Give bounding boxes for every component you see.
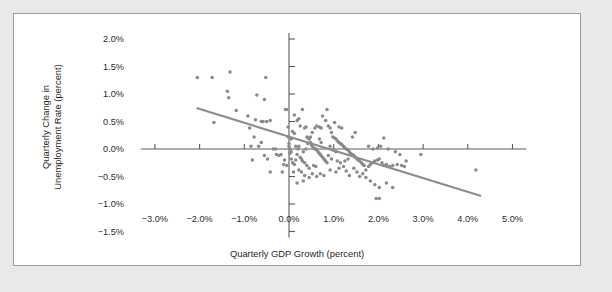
y-tick-label: 1.0% — [103, 89, 124, 99]
data-point — [307, 176, 311, 180]
y-tick-label: −0.5% — [98, 172, 124, 182]
data-point — [333, 121, 337, 125]
data-point — [319, 126, 323, 130]
data-point — [283, 158, 287, 162]
data-point — [340, 126, 344, 130]
data-point — [293, 113, 297, 117]
data-point — [302, 179, 306, 183]
data-point — [327, 154, 331, 158]
data-point — [309, 135, 313, 139]
data-point — [279, 153, 283, 157]
data-point — [403, 165, 407, 169]
data-point — [364, 176, 368, 180]
data-point — [305, 164, 309, 168]
data-point — [394, 150, 398, 154]
data-point — [344, 169, 348, 173]
data-point — [315, 175, 319, 179]
data-point — [255, 93, 259, 97]
x-tick-label: 2.0% — [368, 214, 389, 224]
x-tick-label: −3.0% — [142, 214, 168, 224]
data-point — [286, 125, 290, 129]
data-point — [328, 168, 332, 172]
data-point — [419, 153, 423, 157]
data-point — [274, 147, 278, 151]
data-point — [378, 186, 382, 190]
y-tick-label: −1.5% — [98, 227, 124, 237]
data-point — [251, 158, 255, 162]
data-point — [264, 76, 268, 80]
data-point — [226, 90, 230, 94]
x-tick-label: 4.0% — [457, 214, 478, 224]
data-point — [289, 157, 293, 161]
data-point — [268, 170, 272, 174]
x-tick-label: 5.0% — [502, 214, 523, 224]
data-point — [334, 170, 338, 174]
data-point — [325, 108, 329, 112]
data-point — [254, 118, 258, 122]
data-point — [367, 145, 371, 149]
data-point — [369, 179, 373, 183]
data-point — [304, 147, 308, 151]
data-point — [358, 175, 362, 179]
data-point — [257, 145, 261, 149]
data-point — [361, 172, 365, 176]
data-point — [314, 165, 318, 169]
data-point — [337, 167, 341, 171]
x-tick-label: −1.0% — [231, 214, 257, 224]
data-point — [212, 121, 216, 125]
data-point — [318, 137, 322, 141]
data-point — [319, 172, 323, 176]
data-point — [376, 146, 380, 150]
data-point — [268, 119, 272, 123]
data-point — [297, 117, 301, 121]
data-point — [378, 157, 382, 161]
y-tick-label: 2.0% — [103, 34, 124, 44]
data-point — [330, 131, 334, 135]
data-point — [295, 153, 299, 157]
data-point — [301, 108, 305, 112]
data-point — [293, 163, 297, 167]
data-point — [353, 131, 357, 135]
data-point — [298, 124, 302, 128]
data-point — [342, 165, 346, 169]
x-tick-label: −2.0% — [186, 214, 212, 224]
data-point — [352, 167, 356, 171]
axes-layer — [141, 33, 527, 238]
y-axis-title-group: Quarterly Change in Unemployment Rate (p… — [40, 64, 63, 190]
data-point — [304, 125, 308, 129]
data-point — [300, 170, 304, 174]
data-point — [382, 136, 386, 140]
data-point — [346, 157, 350, 161]
data-point — [351, 135, 355, 139]
data-point — [371, 147, 375, 151]
data-point — [265, 120, 269, 124]
data-point — [398, 153, 402, 157]
y-tick-label: −1.0% — [98, 199, 124, 209]
data-point — [297, 168, 301, 172]
data-point — [295, 181, 299, 185]
data-point — [324, 119, 328, 123]
data-point — [298, 156, 302, 160]
data-point — [330, 157, 334, 161]
chart-figure: −3.0%−2.0%−1.0%0.0%1.0%2.0%3.0%4.0%5.0%−… — [13, 13, 581, 266]
y-tick-label: 1.5% — [103, 62, 124, 72]
data-point — [263, 154, 267, 158]
data-point — [289, 150, 293, 154]
trendline-layer — [197, 108, 480, 195]
data-point — [325, 161, 329, 165]
trendline — [197, 108, 480, 195]
data-point — [210, 76, 214, 80]
data-point — [391, 186, 395, 190]
data-point — [294, 145, 298, 149]
data-point — [294, 158, 298, 162]
data-point — [373, 183, 377, 187]
data-point — [228, 70, 232, 74]
data-point — [328, 126, 332, 130]
data-point — [235, 109, 239, 113]
data-point — [307, 167, 311, 171]
data-point — [310, 172, 314, 176]
data-point — [246, 114, 250, 118]
data-point — [252, 135, 256, 139]
data-point — [474, 168, 478, 172]
data-point — [310, 131, 314, 135]
